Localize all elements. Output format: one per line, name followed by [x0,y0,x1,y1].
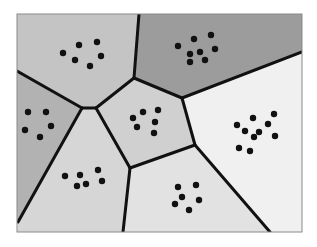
data-point [37,134,43,140]
data-point [250,115,256,121]
data-point [94,39,100,45]
data-point [202,57,208,63]
data-point [60,50,66,56]
voronoi-diagram [0,0,317,247]
data-point [236,145,242,151]
data-point [83,181,89,187]
data-point [242,128,248,134]
data-point [95,167,101,173]
data-point [175,184,181,190]
data-point [247,148,253,154]
data-point [179,194,185,200]
data-point [72,57,78,63]
data-point [191,36,197,42]
data-point [43,109,49,115]
data-point [172,201,178,207]
data-point [62,173,68,179]
data-point [234,122,240,128]
data-point [271,111,277,117]
data-point [155,107,161,113]
data-point [175,43,181,49]
data-point [265,121,271,127]
data-point [212,46,218,52]
data-point [48,123,54,129]
data-point [77,172,83,178]
data-point [187,51,193,57]
data-point [256,129,262,135]
data-point [251,134,257,140]
data-point [193,182,199,188]
data-point [187,59,193,65]
diagram-svg [0,0,317,247]
data-point [74,183,80,189]
data-point [98,53,104,59]
data-point [87,63,93,69]
data-point [22,127,28,133]
data-point [272,133,278,139]
data-point [186,207,192,213]
data-point [134,124,140,130]
data-point [99,178,105,184]
data-point [140,109,146,115]
data-point [151,130,157,136]
data-point [152,119,158,125]
data-point [208,32,214,38]
data-point [196,197,202,203]
data-point [130,115,136,121]
data-point [197,49,203,55]
data-point [76,42,82,48]
data-point [25,109,31,115]
cells-layer [17,14,302,232]
